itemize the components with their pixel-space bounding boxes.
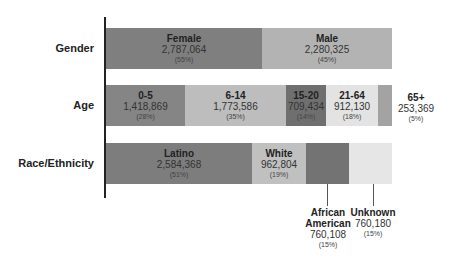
bar-segment-age-6-14: 6-14 1,773,586 (35%) xyxy=(185,85,286,126)
segment-category: 6-14 xyxy=(225,90,245,101)
bar-segment-white: White 962,804 (19%) xyxy=(252,143,306,184)
segment-value: 2,584,368 xyxy=(157,159,202,170)
segment-value: 709,434 xyxy=(288,101,324,112)
segment-value: 2,787,064 xyxy=(162,44,207,55)
segment-value: 1,773,586 xyxy=(213,101,258,112)
segment-percent: (18%) xyxy=(343,112,362,121)
leader-line-african-american xyxy=(327,184,328,206)
segment-percent: (55%) xyxy=(175,55,194,64)
row-label-gender: Gender xyxy=(55,42,94,54)
segment-category: 21-64 xyxy=(339,90,365,101)
segment-value: 1,418,869 xyxy=(123,101,168,112)
label-african-american: African American 760,108 (15%) xyxy=(300,207,356,249)
segment-category: Female xyxy=(167,33,201,44)
bar-segment-male: Male 2,280,325 (45%) xyxy=(262,28,392,69)
segment-value: 962,804 xyxy=(261,159,297,170)
bar-segment-unknown xyxy=(349,143,392,184)
segment-percent: (5%) xyxy=(396,114,436,123)
segment-value: 760,180 xyxy=(350,218,396,229)
segment-category: Latino xyxy=(164,148,194,159)
segment-percent: (35%) xyxy=(226,112,245,121)
row-label-age: Age xyxy=(73,99,94,111)
bar-segment-latino: Latino 2,584,368 (51%) xyxy=(106,143,252,184)
segment-category: 65+ xyxy=(396,92,436,103)
segment-category: Unknown xyxy=(350,207,396,218)
segment-value: 912,130 xyxy=(334,101,370,112)
leader-line-unknown xyxy=(373,184,374,206)
segment-category: American xyxy=(300,218,356,229)
segment-category: White xyxy=(265,148,292,159)
label-unknown: Unknown 760,180 (15%) xyxy=(350,207,396,238)
segment-category: 0-5 xyxy=(138,90,152,101)
segment-category: 15-20 xyxy=(293,90,319,101)
segment-value: 2,280,325 xyxy=(305,44,350,55)
segment-percent: (51%) xyxy=(170,170,189,179)
segment-category: African xyxy=(300,207,356,218)
bar-segment-age-0-5: 0-5 1,418,869 (28%) xyxy=(106,85,185,126)
segment-percent: (45%) xyxy=(318,55,337,64)
row-label-race: Race/Ethnicity xyxy=(18,157,94,169)
segment-value: 253,369 xyxy=(396,103,436,114)
segment-percent: (15%) xyxy=(350,229,396,238)
segment-value: 760,108 xyxy=(300,229,356,240)
bar-segment-age-65-plus xyxy=(378,85,392,126)
segment-percent: (28%) xyxy=(136,112,155,121)
segment-percent: (15%) xyxy=(300,240,356,249)
bar-segment-age-21-64: 21-64 912,130 (18%) xyxy=(326,85,378,126)
segment-category: Male xyxy=(316,33,338,44)
segment-percent: (19%) xyxy=(270,170,289,179)
bar-segment-african-american xyxy=(306,143,349,184)
segment-percent: (14%) xyxy=(297,112,316,121)
bar-segment-female: Female 2,787,064 (55%) xyxy=(106,28,262,69)
bar-segment-age-15-20: 15-20 709,434 (14%) xyxy=(286,85,326,126)
label-age-65-plus: 65+ 253,369 (5%) xyxy=(396,92,436,123)
